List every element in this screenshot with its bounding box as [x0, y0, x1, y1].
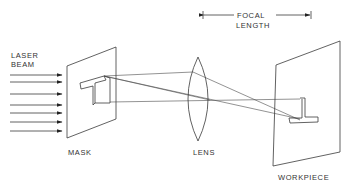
laser-beam-label-line2: BEAM [11, 60, 35, 69]
workpiece-t-image [289, 98, 318, 123]
mask-label: MASK [68, 148, 92, 157]
mask [67, 47, 116, 138]
mask-t-depth [95, 76, 110, 103]
ray [193, 72, 300, 120]
mask-t-pattern [80, 76, 106, 105]
ray [104, 72, 193, 76]
laser-beam-label-line1: LASER [11, 51, 39, 60]
focal-length-label-line2: LENGTH [236, 21, 270, 30]
workpiece [273, 41, 340, 166]
laser-projection-diagram: LASER BEAM MASK LENS FOCAL LE [0, 0, 349, 190]
ray [110, 99, 300, 102]
workpiece-plane [273, 41, 340, 166]
mask-plane [67, 47, 116, 138]
light-rays [104, 72, 300, 120]
ray [104, 76, 210, 100]
lens-label: LENS [193, 148, 215, 157]
laser-beam-label: LASER BEAM [11, 51, 39, 69]
workpiece-label: WORKPIECE [278, 173, 329, 182]
focal-length-label-line1: FOCAL [237, 11, 265, 20]
focal-length-dimension: FOCAL LENGTH [203, 11, 311, 30]
laser-beam-arrows [10, 75, 62, 131]
